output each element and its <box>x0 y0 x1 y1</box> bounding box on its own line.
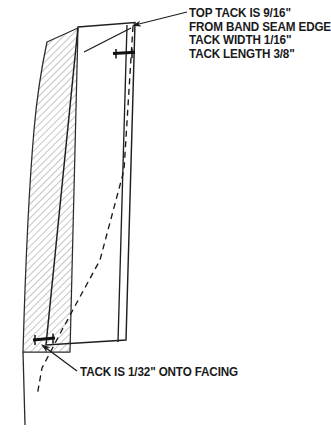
bottom-annotation-note: TACK IS 1/32" ONTO FACING <box>80 366 238 380</box>
top-annotation-note: TOP TACK IS 9/16" FROM BAND SEAM EDGE TA… <box>189 7 331 61</box>
top-note-line-4: TACK LENGTH 3/8" <box>189 48 331 62</box>
garment-left-contour <box>23 352 25 425</box>
top-note-line-3: TACK WIDTH 1/16" <box>189 34 331 48</box>
top-note-line-1: TOP TACK IS 9/16" <box>189 7 331 21</box>
top-leader-line <box>133 12 187 26</box>
top-note-line-2: FROM BAND SEAM EDGE <box>189 21 331 35</box>
